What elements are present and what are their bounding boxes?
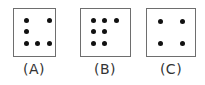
option-b-dot [102, 29, 107, 34]
option-b-label: (B) [80, 61, 130, 77]
option-b-dot [91, 29, 96, 34]
option-b-dot [114, 18, 119, 23]
option-a-box [13, 8, 56, 57]
option-c-dot [180, 41, 185, 46]
option-b-dot [102, 41, 107, 46]
option-a-dot [24, 18, 29, 23]
option-a-dot [35, 41, 40, 46]
option-a-dot [47, 18, 52, 23]
option-b-dot [91, 41, 96, 46]
option-c-dot [180, 19, 185, 24]
option-a-dot [24, 41, 29, 46]
option-b-dot [102, 18, 107, 23]
option-c-dot [158, 19, 163, 24]
option-a-label: (A) [9, 61, 59, 77]
option-a-dot [24, 29, 29, 34]
option-c-label: (C) [146, 61, 196, 77]
option-b-dot [91, 18, 96, 23]
option-c-dot [158, 41, 163, 46]
option-c-box [146, 8, 196, 57]
option-a-dot [47, 41, 52, 46]
